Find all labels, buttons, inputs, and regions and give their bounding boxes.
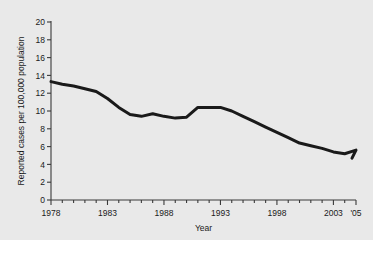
y-tick-label: 0 — [40, 195, 45, 205]
x-tick-label: 1983 — [98, 208, 117, 218]
y-tick-label: 20 — [36, 17, 46, 27]
axis-titles: YearReported cases per 100,000 populatio… — [16, 36, 212, 233]
x-tick-label: 1978 — [42, 208, 61, 218]
axes — [51, 21, 356, 200]
y-axis-title: Reported cases per 100,000 population — [16, 36, 26, 185]
y-tick-label: 18 — [36, 35, 46, 45]
data-line — [51, 82, 356, 159]
y-tick-label: 2 — [40, 177, 45, 187]
bottom-white-strip — [0, 240, 373, 253]
y-tick-label: 10 — [36, 106, 46, 116]
y-tick-label: 12 — [36, 88, 46, 98]
chart-figure: 0246810121416182019781983198819931998200… — [0, 0, 373, 240]
axis-ticks — [47, 22, 356, 205]
x-tick-label: 1988 — [155, 208, 174, 218]
x-axis-title: Year — [195, 223, 212, 233]
y-tick-label: 6 — [40, 142, 45, 152]
axis-tick-labels: 0246810121416182019781983198819931998200… — [36, 17, 362, 218]
y-tick-label: 4 — [40, 160, 45, 170]
x-tick-label: '05 — [350, 208, 361, 218]
x-tick-label: 1998 — [267, 208, 286, 218]
y-tick-label: 14 — [36, 71, 46, 81]
line-chart: 0246810121416182019781983198819931998200… — [0, 0, 373, 240]
y-tick-label: 8 — [40, 124, 45, 134]
series-line — [51, 82, 356, 159]
x-tick-label: 2003 — [324, 208, 343, 218]
x-tick-label: 1993 — [211, 208, 230, 218]
y-tick-label: 16 — [36, 53, 46, 63]
